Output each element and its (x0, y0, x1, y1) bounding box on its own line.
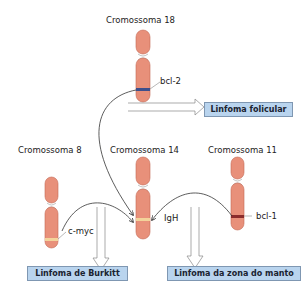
chromosome-18-label: Cromossoma 18 (106, 15, 175, 25)
arrow-to-burkitt (93, 207, 109, 270)
chromosome-14-label: Cromossoma 14 (110, 145, 179, 155)
bcl-2-band (136, 88, 150, 91)
c-myc-band (45, 238, 58, 241)
bcl-2-label: bcl-2 (160, 76, 181, 86)
chromosome-14 (136, 157, 150, 239)
c-myc-label: c-myc (68, 226, 94, 236)
chromosome-18 (136, 30, 160, 102)
chromosome-11-label: Cromossoma 11 (208, 145, 277, 155)
outcome-follicular-box: Linfoma folicular (204, 102, 293, 117)
arrow-to-follicular (128, 99, 204, 115)
bcl-1-label: bcl-1 (256, 211, 277, 221)
bcl-1-band (231, 215, 244, 218)
arrow-to-mantle (187, 207, 203, 268)
outcome-burkitt-box: Linfoma de Burkitt (27, 266, 128, 281)
outcome-mantle-box: Linfoma da zona do manto (167, 266, 301, 281)
chromosome-8 (45, 177, 66, 248)
chromosome-11 (231, 157, 252, 230)
chromosome-8-label: Cromossoma 8 (18, 145, 82, 155)
igh-band (136, 218, 150, 221)
igh-label: IgH (164, 213, 178, 223)
